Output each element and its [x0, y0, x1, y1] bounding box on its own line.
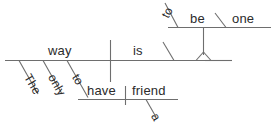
word-way: way [48, 44, 72, 57]
upper-complement-slant [215, 13, 226, 28]
support-tripod-right-foot [204, 52, 212, 61]
word-one: one [232, 12, 254, 25]
diagram-strokes [0, 0, 271, 125]
sentence-diagram: way is The only to have friend a to be o… [0, 0, 271, 125]
word-friend: friend [132, 84, 166, 97]
word-be: be [190, 12, 205, 25]
word-is: is [133, 44, 143, 57]
predicate-complement-slant [163, 42, 174, 61]
word-have: have [87, 84, 116, 97]
support-tripod-left-foot [196, 52, 204, 61]
